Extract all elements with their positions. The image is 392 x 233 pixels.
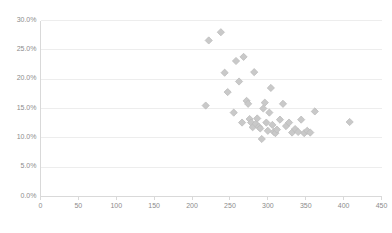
y-tick-label-1: 5.0% (21, 162, 37, 169)
y-tick-label-2: 10.0% (17, 133, 37, 140)
data-point (224, 88, 231, 95)
x-tick-label-8: 400 (329, 202, 359, 209)
x-tick-label-1: 50 (63, 202, 93, 209)
y-tick-label-3: 15.0% (17, 104, 37, 111)
scatter-chart: 0.0%5.0%10.0%15.0%20.0%25.0%30.0% 050100… (0, 0, 392, 233)
data-point (346, 118, 353, 125)
x-tick-label-9: 450 (367, 202, 392, 209)
y-tick-label-6: 30.0% (17, 16, 37, 23)
data-point (264, 127, 271, 134)
data-point (298, 116, 305, 123)
data-point (258, 135, 265, 142)
x-tick-label-3: 150 (139, 202, 169, 209)
plot-area (0, 0, 392, 233)
x-tick-label-7: 350 (291, 202, 321, 209)
x-tick-label-0: 0 (26, 202, 56, 209)
data-point (205, 37, 212, 44)
data-point (260, 105, 267, 112)
data-point (261, 99, 268, 106)
data-point (217, 29, 224, 36)
x-tick-label-2: 100 (101, 202, 131, 209)
x-tick-label-6: 300 (253, 202, 283, 209)
y-tick-label-0: 0.0% (21, 192, 37, 199)
x-tick-label-4: 200 (177, 202, 207, 209)
data-point (251, 69, 258, 76)
y-tick-label-4: 20.0% (17, 74, 37, 81)
gridlines (41, 21, 382, 197)
data-point (266, 109, 273, 116)
data-point (279, 100, 286, 107)
data-point (238, 119, 245, 126)
data-point (240, 53, 247, 60)
y-tick-label-5: 25.0% (17, 45, 37, 52)
data-point (221, 69, 228, 76)
x-tick-label-5: 250 (215, 202, 245, 209)
data-point (230, 109, 237, 116)
data-point (232, 57, 239, 64)
data-point-markers (202, 29, 353, 143)
data-point (276, 116, 283, 123)
data-point (267, 84, 274, 91)
